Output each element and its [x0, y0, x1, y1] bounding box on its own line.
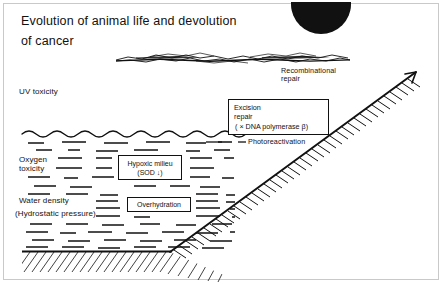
figure-title-line-1: Evolution of animal life and devolution [21, 14, 237, 29]
wavy-water-surface-icon [22, 131, 246, 137]
label-uv-toxicity: UV toxicity [19, 87, 58, 96]
label-hydrostatic-pressure: (Hydrostatic pressure) [15, 209, 96, 218]
label-photoreactivation: Photoreactivation [248, 138, 305, 146]
figure-title-line-2: of cancer [21, 34, 74, 49]
callout-hypoxic-milieu-line-1: Hypoxic milieu [119, 159, 181, 168]
label-oxygen-toxicity: Oxygen toxicity [19, 155, 47, 174]
callout-excision-repair: Excision repair ( × DNA polymerase β) [228, 99, 329, 135]
label-water-density: Water density [19, 196, 69, 205]
callout-hypoxic-milieu-line-2: (SOD ↓) [119, 168, 181, 177]
callout-excision-repair-line-1: Excision [234, 103, 323, 112]
figure-canvas: Evolution of animal life and devolution … [0, 0, 443, 284]
callout-overhydration: Overhydration [127, 197, 191, 212]
callout-overhydration-label: Overhydration [128, 200, 190, 209]
label-recombinational-repair: Recombinational repair [281, 67, 336, 84]
hatched-seabed-icon [8, 252, 222, 283]
sun-half-disc-icon [291, 2, 351, 34]
label-oxygen-toxicity-line-2: toxicity [19, 164, 47, 173]
callout-excision-repair-line-2: repair [234, 112, 323, 121]
label-oxygen-toxicity-line-1: Oxygen [19, 155, 47, 164]
callout-excision-repair-line-3: ( × DNA polymerase β) [234, 122, 323, 131]
label-recombinational-repair-line-2: repair [281, 75, 336, 83]
callout-hypoxic-milieu: Hypoxic milieu (SOD ↓) [118, 155, 182, 180]
